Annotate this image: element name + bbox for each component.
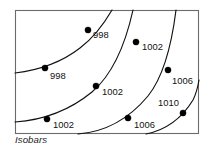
isobar-label: 1002 (142, 41, 163, 52)
figure-caption: Isobars (15, 134, 47, 145)
station-dot (165, 67, 171, 73)
isobar-label: 1002 (53, 119, 74, 130)
isobar-label: 1010 (158, 97, 179, 108)
isobar-label: 998 (50, 70, 66, 81)
isobar-label: 1006 (134, 119, 155, 130)
station-dot (44, 116, 50, 122)
station-dot (93, 83, 99, 89)
station-dot (180, 110, 186, 116)
isobar-map-svg: 998 998 1002 1002 1002 1006 1006 1010 (0, 0, 210, 150)
isobar-label: 998 (93, 29, 109, 40)
station-dot (85, 27, 91, 33)
station-dot (42, 65, 48, 71)
station-dot (125, 115, 131, 121)
isobar-label: 1006 (172, 75, 193, 86)
isobar-figure: 998 998 1002 1002 1002 1006 1006 1010 Is… (0, 0, 210, 150)
station-dot (133, 39, 139, 45)
isobar-label: 1002 (102, 86, 123, 97)
